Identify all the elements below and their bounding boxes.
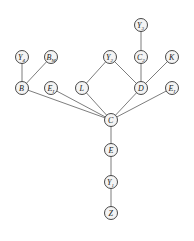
svg-text:B: B	[19, 84, 24, 93]
node-l: L	[76, 82, 89, 95]
edge-b-c	[22, 88, 111, 120]
svg-text:C: C	[108, 116, 114, 125]
dag-diagram: Y3 Y4 BM Y2 C2 K B EI	[0, 0, 194, 241]
svg-text:L: L	[79, 84, 85, 93]
node-e1-right: EI	[166, 82, 179, 95]
node-y4: Y4	[16, 51, 29, 64]
node-e: E	[105, 144, 118, 157]
svg-text:E: E	[108, 146, 114, 155]
node-k: K	[166, 51, 179, 64]
svg-text:Z: Z	[109, 209, 114, 218]
node-bm: BM	[45, 51, 58, 64]
node-b: B	[16, 82, 29, 95]
node-c: C	[105, 114, 118, 127]
svg-text:K: K	[168, 53, 175, 62]
node-z: Z	[105, 207, 118, 220]
node-y1: Y1	[105, 176, 118, 189]
edges	[22, 25, 172, 213]
node-y3: Y3	[135, 19, 148, 32]
node-y2: Y2	[104, 51, 117, 64]
nodes: Y3 Y4 BM Y2 C2 K B EI	[16, 19, 179, 220]
svg-text:D: D	[137, 84, 144, 93]
node-c2: C2	[135, 51, 148, 64]
node-e1-left: EI	[45, 82, 58, 95]
node-d: D	[135, 82, 148, 95]
